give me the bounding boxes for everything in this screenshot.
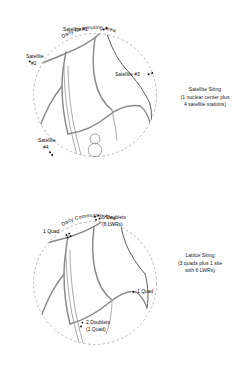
road-central-north-south — [93, 38, 112, 110]
panel-lattice-siting: Daily Commuting Area 1 Quad 3 Doublets (… — [16, 208, 222, 350]
site-dot — [151, 72, 153, 74]
central-city-symbol-top — [88, 134, 102, 157]
road-south-connector — [112, 110, 117, 140]
road-lower-cross-east — [136, 292, 147, 308]
road-lower-cross-east — [140, 106, 152, 131]
site-dot — [95, 219, 97, 221]
label-satellite-4-line2: #4 — [43, 144, 49, 150]
caption-line-1: Lattice Siting — [185, 252, 214, 258]
site-dot — [49, 151, 51, 153]
label-two-doublets-line1: 2 Doublets — [86, 319, 110, 325]
road-network-top — [16, 27, 152, 162]
site-dot — [132, 291, 134, 293]
panel-satellite-siting: Daily Commuting Area Satellite #1 Satell… — [16, 24, 230, 162]
caption-satellite-siting: Satellite Siting (1 nuclear center plus … — [181, 86, 230, 107]
label-three-doublets-line1: 3 Doublets — [102, 214, 126, 220]
label-satellite-4-line1: Satellite — [38, 137, 56, 143]
road-central-north-south — [93, 228, 112, 300]
label-three-doublets-line2: (6 LWRs) — [102, 221, 123, 227]
city-ring-small — [90, 134, 100, 144]
site-dot — [80, 325, 82, 327]
label-two-doublets-line2: (1 Quad) — [86, 326, 106, 332]
caption-line-2: (1 nuclear center plus — [181, 94, 230, 100]
label-satellite-2-line1: Satellite — [26, 53, 44, 59]
road-lower-cross — [68, 105, 140, 134]
road-arterial-west-tail — [16, 244, 42, 250]
site-dot — [67, 237, 69, 239]
site-dot — [65, 234, 67, 236]
caption-line-3: 4 satellite stations) — [184, 101, 226, 107]
road-east-corridor-lower — [150, 104, 152, 131]
label-quad-upper-left: 1 Quad — [43, 228, 60, 234]
figure-container: Daily Commuting Area Satellite #1 Satell… — [0, 0, 234, 368]
caption-line-3: with 6 LWRs) — [185, 267, 215, 273]
site-dot — [68, 233, 70, 235]
caption-line-1: Satellite Siting — [189, 86, 221, 92]
site-dot — [51, 154, 53, 156]
caption-lattice-siting: Lattice Siting (3 quads plus 1 site with… — [178, 252, 222, 273]
label-satellite-2-line2: #2 — [31, 60, 37, 66]
road-parallel-b — [68, 66, 83, 162]
site-dot — [70, 235, 72, 237]
city-ring-large — [88, 143, 102, 157]
label-quad-right: 1 Quad — [137, 288, 154, 294]
road-network-bottom — [16, 208, 148, 350]
caption-line-2: (3 quads plus 1 site — [178, 260, 222, 266]
label-satellite-1: Satellite #1 — [63, 26, 88, 32]
figure-svg: Daily Commuting Area Satellite #1 Satell… — [0, 0, 234, 368]
label-satellite-3: Satellite #3 — [115, 71, 140, 77]
site-dot — [81, 322, 83, 324]
site-dot — [148, 73, 150, 75]
road-east-corridor — [105, 28, 150, 104]
road-parallel-b — [70, 250, 85, 350]
